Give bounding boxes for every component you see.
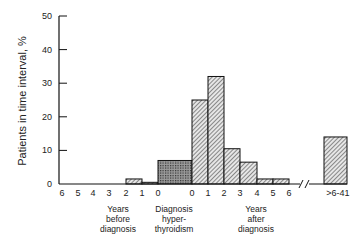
y-tick-label: 10 [42, 145, 52, 155]
bar [158, 160, 192, 184]
group-labels: YearsbeforediagnosisDiagnosishyper-thyro… [100, 204, 274, 234]
x-tick-label: 0 [189, 188, 194, 198]
x-tick-label: 1 [205, 188, 210, 198]
group-label: diagnosis [100, 224, 136, 234]
bar [273, 179, 289, 184]
bar [224, 149, 240, 184]
group-label: after [247, 214, 264, 224]
bar [240, 162, 257, 184]
y-axis-label: Patients in time interval, % [16, 36, 28, 166]
bar [257, 179, 273, 184]
axis-break-icon [305, 180, 309, 188]
group-label: before [106, 214, 130, 224]
x-tick-label: 4 [254, 188, 259, 198]
bars [126, 76, 347, 184]
group-label: hyper- [162, 214, 186, 224]
x-tick-label: 6 [286, 188, 291, 198]
y-tick-label: 30 [42, 78, 52, 88]
x-tick-label: 6 [59, 188, 64, 198]
x-tick-label: 2 [221, 188, 226, 198]
x-tick-label: 5 [270, 188, 275, 198]
bar [208, 76, 224, 184]
group-label: Years [107, 204, 128, 214]
bar [324, 137, 347, 184]
y-tick-label: 50 [42, 11, 52, 21]
y-tick-label: 40 [42, 45, 52, 55]
x-tick-label: 0 [155, 188, 160, 198]
bar [192, 100, 208, 184]
x-tick-label: >6-41 [326, 188, 349, 198]
bar [126, 179, 142, 184]
x-tick-label: 5 [75, 188, 80, 198]
x-tick-label: 3 [106, 188, 111, 198]
x-tick-label: 4 [90, 188, 95, 198]
x-tick-label: 1 [139, 188, 144, 198]
x-tick-label: 2 [123, 188, 128, 198]
chart: Patients in time interval, % 01020304050… [0, 0, 351, 245]
x-tick-label: 3 [237, 188, 242, 198]
group-label: Years [245, 204, 266, 214]
y-axis: 01020304050 [42, 11, 67, 189]
group-label: Diagnosis [155, 204, 192, 214]
y-tick-label: 0 [47, 179, 52, 189]
group-label: diagnosis [238, 224, 274, 234]
group-label: thyroidism [155, 224, 194, 234]
y-tick-label: 20 [42, 112, 52, 122]
